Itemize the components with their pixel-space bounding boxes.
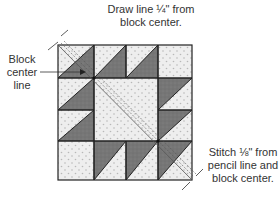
annotation-line: block center. (86, 16, 216, 29)
annotation-line: Block (2, 53, 42, 66)
annotation-line: Draw line ¼" from (86, 3, 216, 16)
center-point (156, 139, 159, 142)
annotation-line: center (2, 66, 42, 79)
stitch-annotation: Stitch ⅛" from pencil line and block cen… (206, 146, 280, 185)
annotation-line: Stitch ⅛" from (206, 146, 280, 159)
annotation-line: pencil line and (206, 159, 280, 172)
block-center-line-annotation: Block center line (2, 53, 42, 92)
center-point (92, 76, 95, 79)
draw-line-annotation: Draw line ¼" from block center. (86, 3, 216, 29)
annotation-line: block center. (206, 172, 280, 185)
annotation-line: line (2, 79, 42, 92)
